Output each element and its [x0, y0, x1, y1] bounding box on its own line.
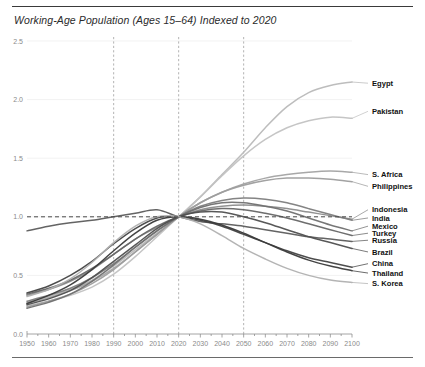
x-axis-tick-label: 2080: [301, 340, 317, 347]
series-leader-s-korea: [352, 282, 368, 283]
series-leader-pakistan: [352, 111, 368, 118]
x-axis-tick-label: 2100: [344, 340, 360, 347]
x-axis-tick-label: 2090: [323, 340, 339, 347]
y-axis-tick-label: 2.0: [13, 96, 23, 103]
y-axis-tick-label: 2.5: [13, 38, 23, 45]
series-label-brazil: Brazil: [372, 248, 393, 257]
y-axis-tick-label: 1.5: [13, 155, 23, 162]
y-axis-tick-label: 1.0: [13, 213, 23, 220]
x-axis-tick-label: 2020: [171, 340, 187, 347]
chart-plot-area: 0.00.51.01.52.02.51950196019701980199020…: [0, 0, 425, 367]
series-label-philippines: Philippines: [372, 182, 413, 191]
x-axis-tick-label: 2040: [214, 340, 230, 347]
x-axis-tick-label: 2000: [128, 340, 144, 347]
series-label-russia: Russia: [372, 236, 398, 245]
series-label-s-africa: S. Africa: [372, 170, 403, 179]
y-axis-tick-label: 0.5: [13, 272, 23, 279]
x-axis-tick-label: 2070: [279, 340, 295, 347]
series-leader-egypt: [352, 82, 368, 83]
line-chart: 0.00.51.01.52.02.51950196019701980199020…: [0, 0, 425, 367]
x-axis-tick-label: 2030: [193, 340, 209, 347]
x-axis-tick-label: 1990: [106, 340, 122, 347]
series-leader-india: [352, 218, 368, 220]
x-axis-tick-label: 1970: [63, 340, 79, 347]
series-leader-s-africa: [352, 172, 368, 174]
series-leader-indonesia: [352, 210, 368, 219]
series-leader-turkey: [352, 233, 368, 235]
series-leader-russia: [352, 240, 368, 241]
series-line-egypt: [27, 82, 352, 302]
x-axis-tick-label: 1980: [84, 340, 100, 347]
series-label-thailand: Thailand: [372, 269, 404, 278]
series-label-china: China: [372, 259, 394, 268]
series-leader-brazil: [352, 248, 368, 252]
x-axis-tick-label: 2010: [149, 340, 165, 347]
x-axis-tick-label: 1960: [41, 340, 57, 347]
series-leader-china: [352, 264, 368, 268]
series-leader-thailand: [352, 271, 368, 273]
series-label-s-korea: S. Korea: [372, 279, 404, 288]
x-axis-tick-label: 1950: [19, 340, 35, 347]
x-axis-tick-label: 2060: [258, 340, 274, 347]
series-leader-philippines: [352, 182, 368, 187]
series-label-egypt: Egypt: [372, 79, 394, 88]
x-axis-tick-label: 2050: [236, 340, 252, 347]
series-leader-mexico: [352, 226, 368, 231]
series-label-pakistan: Pakistan: [372, 107, 404, 116]
series-line-s-africa: [27, 171, 352, 303]
y-axis-tick-label: 0.0: [13, 331, 23, 338]
